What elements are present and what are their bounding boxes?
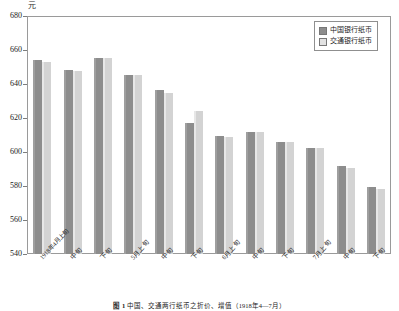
bar-series-1 [194, 111, 203, 254]
bars-layer [27, 16, 391, 254]
legend-item-0: 中国银行纸币 [319, 25, 372, 36]
bar-series-1 [255, 132, 264, 254]
bar-series-0 [367, 187, 376, 254]
figure-caption-tag: 图 1 [113, 302, 125, 309]
figure-caption: 图 1 中国、交通两行纸币之折价、增值（1918年4—7月） [0, 301, 399, 310]
legend-label-series-1: 交通银行纸币 [330, 37, 372, 46]
legend-swatch-series-1 [319, 38, 327, 46]
bar-series-1 [133, 75, 142, 254]
legend-label-series-0: 中国银行纸币 [330, 26, 372, 35]
bar-series-1 [346, 168, 355, 254]
bar-series-1 [224, 137, 233, 254]
bar-series-1 [73, 71, 82, 254]
bar-group [215, 16, 233, 254]
bar-series-0 [94, 58, 103, 254]
bar-series-0 [124, 75, 133, 254]
y-axis-tick-label: 560 [10, 214, 22, 225]
bar-group [64, 16, 82, 254]
chart-legend: 中国银行纸币 交通银行纸币 [314, 21, 378, 51]
bar-series-1 [42, 62, 51, 254]
y-axis-tick-label: 620 [10, 112, 22, 123]
figure-caption-text: 中国、交通两行纸币之折价、增值（1918年4—7月） [127, 302, 286, 309]
bar-series-0 [215, 136, 224, 254]
bar-series-0 [306, 148, 315, 254]
y-axis-tick-label: 600 [10, 146, 22, 157]
bar-group [337, 16, 355, 254]
bar-group [33, 16, 51, 254]
y-axis-tick-label: 660 [10, 44, 22, 55]
bar-series-0 [276, 142, 285, 254]
bar-group [94, 16, 112, 254]
bar-group [276, 16, 294, 254]
y-axis-unit-label: 元 [28, 1, 36, 11]
bar-series-1 [376, 189, 385, 254]
bar-series-1 [285, 142, 294, 254]
bar-group [124, 16, 142, 254]
y-axis: 540560580600620640660680 [0, 16, 27, 254]
bar-series-0 [33, 60, 42, 254]
y-axis-tick-label: 640 [10, 78, 22, 89]
legend-swatch-series-0 [319, 27, 327, 35]
bar-group [306, 16, 324, 254]
bar-series-0 [337, 166, 346, 254]
y-axis-tick-label: 680 [10, 10, 22, 21]
y-axis-tick-label: 580 [10, 180, 22, 191]
bar-group [155, 16, 173, 254]
figure-container: 元 540560580600620640660680 1918年4月上旬中旬下旬… [0, 0, 399, 311]
bar-group [367, 16, 385, 254]
bar-series-1 [164, 93, 173, 255]
bar-series-1 [315, 148, 324, 254]
bar-series-1 [103, 58, 112, 254]
legend-item-1: 交通银行纸币 [319, 36, 372, 47]
y-axis-tick-label: 540 [10, 248, 22, 259]
bar-group [185, 16, 203, 254]
bar-group [246, 16, 264, 254]
bar-series-0 [246, 132, 255, 254]
bar-series-0 [155, 90, 164, 254]
bar-series-0 [185, 123, 194, 254]
